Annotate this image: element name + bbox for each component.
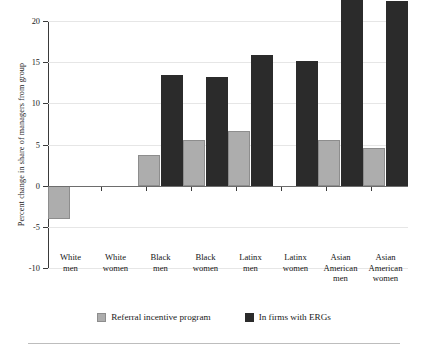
x-axis-category-label: AsianAmericanwomen: [363, 252, 408, 284]
x-axis-category-label: Latinxwomen: [273, 252, 318, 273]
x-axis-category-label: Latinxmen: [228, 252, 273, 273]
y-axis-tick-label: 0: [36, 181, 40, 190]
bar: [363, 148, 385, 186]
y-axis-title: Percent change in share of managers from…: [17, 20, 26, 270]
bar-chart-figure: Percent change in share of managers from…: [0, 0, 428, 353]
x-axis-category-label-line: Black: [183, 252, 228, 263]
x-axis-category-label-line: American: [363, 263, 408, 274]
bar: [183, 140, 205, 186]
x-axis-category-label-line: Asian: [318, 252, 363, 263]
x-axis-category-label-line: men: [318, 273, 363, 284]
bar: [318, 140, 340, 186]
bar: [251, 55, 273, 186]
x-axis-category-label-line: White: [93, 252, 138, 263]
x-axis-category-label-line: American: [318, 263, 363, 274]
x-axis-category-label-line: women: [93, 263, 138, 274]
gray-swatch-icon: [97, 313, 106, 322]
x-axis-category-label-line: Black: [138, 252, 183, 263]
y-axis-tick-label: 10: [32, 99, 40, 108]
legend-label: In firms with ERGs: [259, 312, 331, 322]
chart-legend: Referral incentive programIn firms with …: [0, 312, 428, 322]
bar: [386, 1, 408, 185]
bar: [296, 61, 318, 186]
bar: [341, 0, 363, 186]
y-axis-tick-label: 20: [32, 17, 40, 26]
bottom-divider: [28, 343, 400, 344]
bar: [138, 155, 160, 185]
x-axis-category-label-line: men: [48, 263, 93, 274]
y-axis-tick: 20: [43, 21, 48, 22]
y-axis-tick: 5: [43, 145, 48, 146]
y-axis-tick-label: -5: [33, 222, 40, 231]
x-axis-category-label-line: women: [183, 263, 228, 274]
x-axis-category-label-line: men: [228, 263, 273, 274]
x-axis-category-label-line: Asian: [363, 252, 408, 263]
y-axis-tick-label: 15: [32, 58, 40, 67]
zero-baseline: [48, 186, 408, 187]
x-axis-category-label-line: women: [273, 263, 318, 274]
x-axis-category-label: Blackmen: [138, 252, 183, 273]
y-axis-tick: -5: [43, 227, 48, 228]
bar: [48, 186, 70, 220]
plot-area: 20151050-5-10: [48, 21, 408, 268]
x-axis-category-label-line: Latinx: [228, 252, 273, 263]
bar: [161, 75, 183, 185]
legend-entry: Referral incentive program: [97, 312, 210, 322]
y-axis-tick-label: 5: [36, 140, 40, 149]
x-axis-category-label-line: women: [363, 273, 408, 284]
y-axis-tick: 10: [43, 103, 48, 104]
gridline: [48, 227, 408, 228]
x-axis-category-label: Whitemen: [48, 252, 93, 273]
x-axis-category-label: Whitewomen: [93, 252, 138, 273]
x-axis-category-label-line: White: [48, 252, 93, 263]
dark-swatch-icon: [245, 313, 254, 322]
legend-entry: In firms with ERGs: [245, 312, 331, 322]
legend-label: Referral incentive program: [111, 312, 210, 322]
x-axis-category-label: Blackwomen: [183, 252, 228, 273]
x-axis-category-label: AsianAmericanmen: [318, 252, 363, 284]
y-axis-tick: 15: [43, 62, 48, 63]
x-axis-category-label-line: men: [138, 263, 183, 274]
x-axis-category-label-line: Latinx: [273, 252, 318, 263]
bar: [206, 77, 228, 186]
bar: [228, 131, 250, 185]
y-axis-tick-label: -10: [29, 264, 40, 273]
